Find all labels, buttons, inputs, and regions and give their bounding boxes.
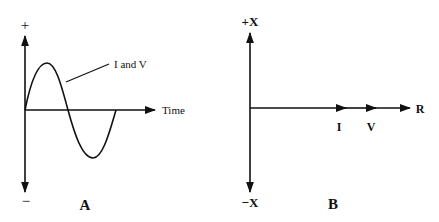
b-panel-label: B — [328, 196, 338, 212]
diagram-canvas: + − Time I and V A +X −X R I V B — [0, 0, 439, 222]
b-minus-x-label: −X — [242, 195, 259, 210]
b-plus-x-label: +X — [242, 14, 259, 29]
b-r-label: R — [416, 102, 425, 116]
a-curve-label: I and V — [114, 58, 147, 70]
diagram-b: +X −X R I V B — [242, 14, 425, 212]
b-i-label: I — [337, 120, 342, 134]
diagram-a: + − Time I and V A — [21, 17, 185, 213]
a-minus-label: − — [22, 193, 30, 209]
a-leader-line — [66, 64, 109, 82]
b-v-label: V — [367, 120, 376, 134]
a-panel-label: A — [80, 197, 91, 213]
a-time-label: Time — [162, 104, 185, 116]
a-plus-label: + — [21, 17, 29, 33]
